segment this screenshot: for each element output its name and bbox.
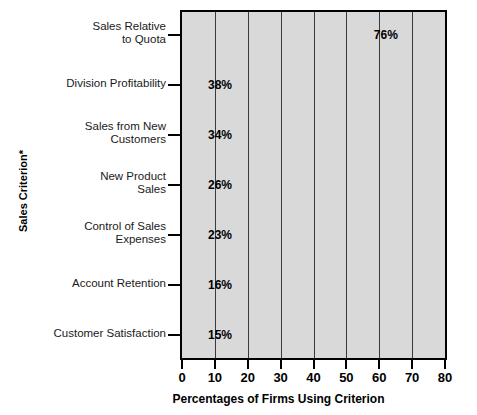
y-axis-tick	[168, 134, 180, 136]
bar[interactable]: 76%	[182, 20, 432, 50]
bar-cap	[180, 20, 182, 50]
y-axis-tick	[168, 334, 180, 336]
x-axis-tick-30	[280, 360, 282, 369]
gridline-60	[379, 12, 380, 358]
y-axis-label: Sales from NewCustomers	[85, 120, 166, 146]
bar-value-label: 26%	[208, 178, 232, 192]
gridline-50	[346, 12, 347, 358]
y-axis-label: Customer Satisfaction	[54, 327, 167, 340]
x-axis-tick-10	[214, 360, 216, 369]
bar-value-label: 38%	[208, 78, 232, 92]
y-axis-tick	[168, 284, 180, 286]
bar-value-label: 16%	[208, 278, 232, 292]
bar-cap	[180, 270, 182, 300]
x-axis-tick-40	[313, 360, 315, 369]
bar-cap	[180, 120, 182, 150]
bar-value-label: 76%	[374, 28, 398, 42]
x-axis-tick-70	[411, 360, 413, 369]
bar-value-label: 34%	[208, 128, 232, 142]
x-axis-tick-80	[444, 360, 446, 369]
bar-cap	[180, 220, 182, 250]
y-axis-tick	[168, 34, 180, 36]
y-axis-label: Sales Relativeto Quota	[92, 20, 166, 46]
plot-area: 76%38%34%26%23%16%15%	[180, 10, 447, 360]
gridline-70	[412, 12, 413, 358]
bar[interactable]: 23%	[182, 220, 258, 250]
bar[interactable]: 16%	[182, 270, 235, 300]
x-axis-tick-20	[247, 360, 249, 369]
bar[interactable]: 38%	[182, 70, 307, 100]
gridline-30	[281, 12, 282, 358]
y-axis-tick	[168, 234, 180, 236]
bar-cap	[180, 70, 182, 100]
x-axis-tick-60	[378, 360, 380, 369]
y-axis-label: Control of SalesExpenses	[84, 220, 166, 246]
bar-value-label: 23%	[208, 228, 232, 242]
y-axis-label: Account Retention	[72, 277, 166, 290]
y-axis-label: New ProductSales	[100, 170, 166, 196]
y-axis-tick	[168, 84, 180, 86]
y-axis-title: Sales Criterion*	[17, 111, 29, 271]
bar[interactable]: 26%	[182, 170, 267, 200]
y-axis-tick	[168, 184, 180, 186]
bar-chart: Sales Criterion* Sales Relativeto QuotaD…	[0, 0, 477, 415]
bar[interactable]: 15%	[182, 320, 231, 350]
x-axis-title: Percentages of Firms Using Criterion	[0, 392, 477, 406]
x-axis-tick-0	[181, 360, 183, 369]
x-axis-title-text: Percentages of Firms Using Criterion	[92, 392, 384, 406]
bar-value-label: 15%	[208, 328, 232, 342]
bar[interactable]: 34%	[182, 120, 294, 150]
x-axis-tick-50	[345, 360, 347, 369]
y-axis-label: Division Profitability	[66, 77, 166, 90]
bar-cap	[180, 320, 182, 350]
gridline-40	[314, 12, 315, 358]
x-axis-tick-label-80: 80	[425, 370, 465, 385]
bar-cap	[180, 170, 182, 200]
